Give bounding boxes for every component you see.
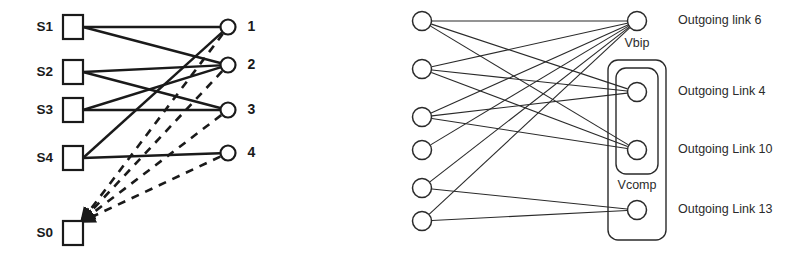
incoming-node-l2 [413, 60, 432, 79]
edge-l2-r4 [432, 70, 627, 91]
dashed-edge-t3-to-s0 [81, 115, 221, 222]
dashed-edge-t1-to-s0 [81, 34, 223, 222]
state-node-s4 [63, 146, 83, 170]
state-label-s0: S0 [36, 225, 53, 240]
outgoing-node-r10 [628, 141, 647, 160]
right-label-group: Outgoing link 6Outgoing Link 4Outgoing L… [618, 13, 773, 216]
incoming-node-l4 [413, 141, 432, 160]
edge-l6-r13 [432, 211, 627, 221]
outgoing-label-r10: Outgoing Link 10 [678, 142, 773, 156]
left-figure: S1S2S3S4S01234 [0, 0, 400, 261]
state-node-s2 [63, 60, 83, 84]
diagram-canvas: S1S2S3S4S01234 Outgoing link 6Outgoing L… [0, 0, 797, 261]
state-label-s1: S1 [36, 19, 53, 34]
group-label-vbip: Vbip [624, 36, 649, 50]
edge-l3-r6 [431, 25, 628, 113]
target-node-2 [221, 58, 236, 73]
left-label-group: S1S2S3S4S01234 [36, 18, 255, 240]
target-label-3: 3 [248, 101, 256, 117]
dashed-edge-group [81, 34, 223, 222]
target-node-1 [221, 20, 236, 35]
solid-edge-group [83, 27, 222, 158]
source-node-group [63, 15, 83, 245]
incoming-node-l5 [413, 179, 432, 198]
edge-l5-r13 [432, 189, 627, 209]
target-node-group [221, 20, 236, 161]
edge-l6-r6 [429, 28, 629, 214]
incoming-node-l6 [413, 212, 432, 231]
target-node-3 [221, 103, 236, 118]
state-label-s2: S2 [36, 64, 53, 79]
right-edge-group [429, 21, 629, 220]
outgoing-label-r13: Outgoing Link 13 [678, 202, 773, 216]
right-source-node-group [413, 12, 432, 231]
dashed-edge-t4-to-s0 [81, 157, 220, 222]
edge-l2-r10 [431, 73, 627, 147]
right-figure: Outgoing link 6Outgoing Link 4Outgoing L… [400, 0, 797, 261]
edge-s2-t2 [83, 65, 220, 72]
outgoing-node-r13 [628, 201, 647, 220]
outgoing-node-r4 [628, 83, 647, 102]
outgoing-label-r6: Outgoing link 6 [678, 13, 761, 27]
edge-s4-t4 [83, 153, 220, 158]
group-label-vcomp: Vcomp [618, 178, 657, 192]
state-label-s4: S4 [36, 150, 53, 165]
incoming-node-l1 [413, 12, 432, 31]
target-label-1: 1 [248, 18, 256, 34]
edge-l5-r6 [430, 27, 629, 182]
outgoing-label-r4: Outgoing Link 4 [678, 84, 766, 98]
outgoing-node-r6 [628, 12, 647, 31]
target-node-4 [221, 146, 236, 161]
target-label-4: 4 [248, 144, 256, 160]
state-label-s3: S3 [36, 102, 53, 117]
state-node-s0 [63, 221, 83, 245]
dashed-edge-t2-to-s0 [81, 71, 222, 222]
target-label-2: 2 [248, 56, 256, 72]
state-node-s1 [63, 15, 83, 39]
edge-s1-t2 [83, 27, 220, 63]
incoming-node-l3 [413, 108, 432, 127]
edge-l3-r10 [432, 119, 627, 149]
state-node-s3 [63, 98, 83, 122]
